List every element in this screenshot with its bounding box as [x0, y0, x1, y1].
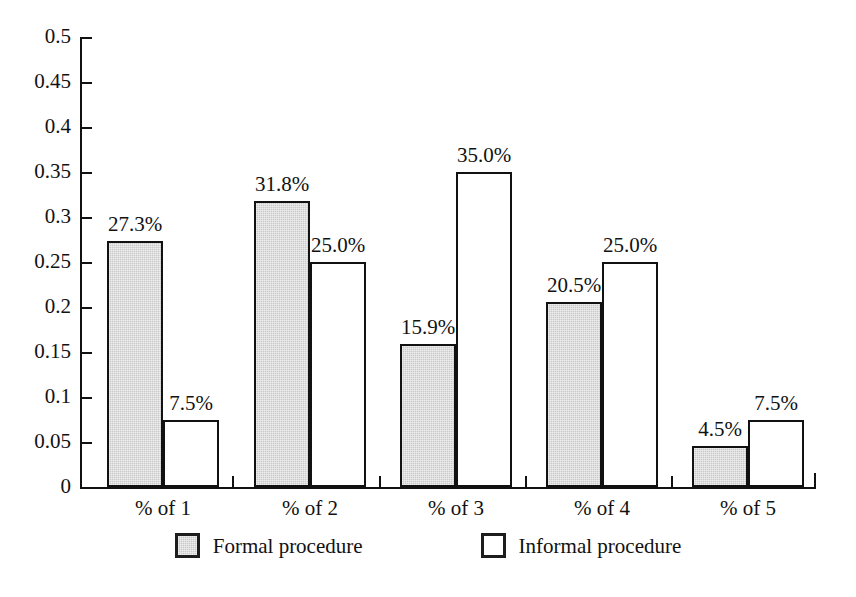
- legend-label-informal: Informal procedure: [519, 535, 682, 557]
- y-axis-tick-label: 0.35: [34, 160, 80, 182]
- legend-label-formal: Formal procedure: [213, 535, 363, 557]
- x-axis-category-label-5: % of 5: [698, 496, 798, 520]
- y-axis-tick-label: 0.4: [45, 115, 80, 137]
- bar-formal-3: [400, 344, 456, 487]
- y-axis-tick-label: 0.2: [45, 295, 80, 317]
- y-axis-tick-label: 0.15: [34, 340, 80, 362]
- bar-label-informal-4: 25.0%: [580, 234, 680, 256]
- bar-label-informal-2: 25.0%: [288, 234, 388, 256]
- x-axis-separator-tick: [232, 476, 234, 487]
- x-axis-separator-tick: [379, 476, 381, 487]
- y-axis-tick-label: 0.25: [34, 250, 80, 272]
- bar-informal-1: [163, 420, 219, 487]
- x-axis-category-label-1: % of 1: [113, 496, 213, 520]
- chart-legend: Formal procedure Informal procedure: [0, 533, 856, 558]
- x-axis-separator-tick: [525, 476, 527, 487]
- x-axis-category-label-4: % of 4: [552, 496, 652, 520]
- legend-swatch-informal-icon: [481, 533, 506, 558]
- legend-item-informal: Informal procedure: [481, 533, 682, 558]
- bar-informal-2: [310, 262, 366, 487]
- legend-swatch-formal-icon: [175, 533, 200, 558]
- y-axis-tick-label: 0.1: [45, 385, 80, 407]
- bar-formal-4: [546, 302, 602, 487]
- x-axis-category-label-3: % of 3: [406, 496, 506, 520]
- bar-informal-5: [748, 420, 804, 487]
- y-axis-tick-label: 0: [61, 475, 81, 497]
- x-axis-end-tick: [814, 473, 816, 487]
- x-axis-separator-tick: [671, 476, 673, 487]
- x-axis-category-label-2: % of 2: [260, 496, 360, 520]
- y-axis-tick-label: 0.5: [45, 25, 80, 47]
- bar-label-formal-2: 31.8%: [232, 173, 332, 195]
- bar-formal-5: [692, 446, 748, 487]
- y-axis-tick-label: 0.05: [34, 430, 80, 452]
- bar-label-formal-1: 27.3%: [85, 213, 185, 235]
- bar-label-informal-1: 7.5%: [141, 392, 241, 414]
- legend-item-formal: Formal procedure: [175, 533, 363, 558]
- bar-formal-1: [107, 241, 163, 487]
- y-axis-tick-label: 0.3: [45, 205, 80, 227]
- bar-label-informal-3: 35.0%: [434, 144, 534, 166]
- bar-informal-4: [602, 262, 658, 487]
- bar-chart: 0.5 0.45 0.4 0.35 0.3 0.25 0.2 0.15 0.1 …: [0, 0, 856, 597]
- bar-label-informal-5: 7.5%: [726, 392, 826, 414]
- y-axis-tick-label: 0.45: [34, 70, 80, 92]
- x-axis-line: [80, 487, 816, 489]
- bar-informal-3: [456, 172, 512, 487]
